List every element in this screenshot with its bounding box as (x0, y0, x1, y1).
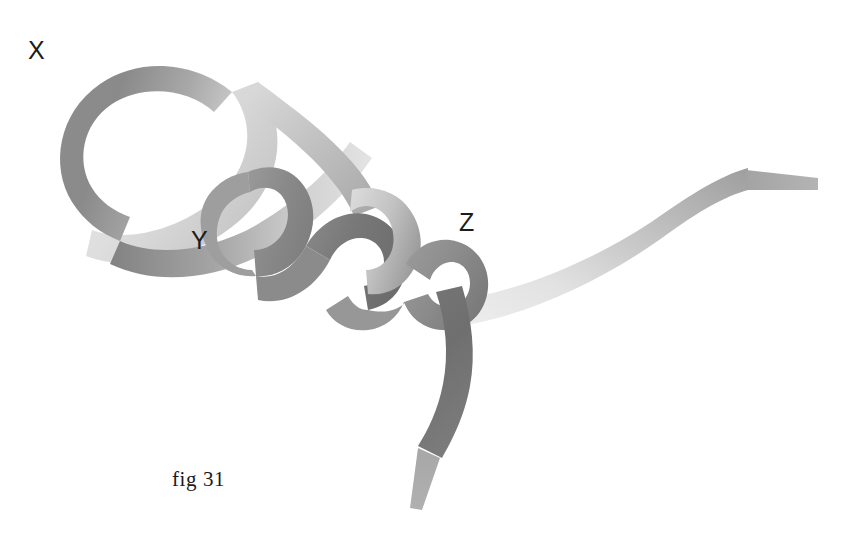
vertex-label-y: Y (191, 228, 208, 253)
ribbon-segment-tail-right (455, 168, 818, 326)
figure-caption: fig 31 (172, 467, 225, 492)
vertex-label-z: Z (459, 210, 475, 235)
figure-canvas: X Y Z fig 31 (0, 0, 859, 541)
twisted-ribbon-illustration (0, 0, 859, 541)
ribbon-segment-twist-1 (201, 167, 314, 276)
vertex-label-x: X (28, 38, 45, 63)
